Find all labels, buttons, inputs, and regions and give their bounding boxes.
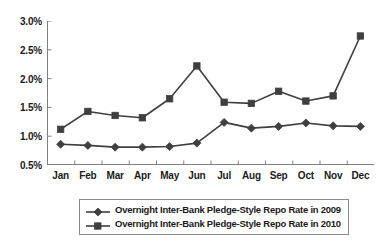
series-1 bbox=[57, 118, 365, 151]
y-tick-label: 2.0% bbox=[20, 73, 42, 84]
square-marker-icon bbox=[221, 99, 227, 105]
y-tick-label: 2.5% bbox=[20, 44, 42, 55]
y-tick-label: 1.5% bbox=[20, 102, 42, 113]
legend-label: Overnight Inter-Bank Pledge-Style Repo R… bbox=[115, 204, 341, 216]
y-tick-label: 1.0% bbox=[20, 131, 42, 142]
square-marker-icon bbox=[357, 33, 363, 39]
x-tick-label: Jul bbox=[217, 170, 231, 181]
series-2 bbox=[57, 33, 363, 133]
diamond-marker-icon bbox=[138, 143, 146, 151]
square-marker-icon bbox=[112, 112, 118, 118]
x-tick-label: Feb bbox=[79, 170, 96, 181]
x-tick-label: Sep bbox=[270, 170, 288, 181]
legend-item[interactable]: Overnight Inter-Bank Pledge-Style Repo R… bbox=[85, 203, 341, 217]
diamond-marker-icon bbox=[84, 141, 92, 149]
x-tick-label: Aug bbox=[242, 170, 261, 181]
y-tick-label: 3.0% bbox=[20, 16, 42, 27]
x-tick-label: Mar bbox=[107, 170, 124, 181]
square-marker-icon bbox=[57, 126, 63, 132]
square-marker-icon bbox=[139, 115, 145, 121]
diamond-marker-icon bbox=[85, 204, 111, 216]
legend-item[interactable]: Overnight Inter-Bank Pledge-Style Repo R… bbox=[85, 217, 341, 231]
x-tick-label: Jun bbox=[188, 170, 205, 181]
square-marker-icon bbox=[166, 96, 172, 102]
square-marker-icon bbox=[85, 218, 111, 230]
series-line bbox=[61, 36, 361, 129]
diamond-marker-icon bbox=[57, 140, 65, 148]
square-marker-icon bbox=[194, 63, 200, 69]
square-marker-icon bbox=[248, 100, 254, 106]
y-axis: 0.5%1.0%1.5%2.0%2.5%3.0% bbox=[0, 21, 42, 165]
diamond-marker-icon bbox=[302, 119, 310, 127]
square-marker-icon bbox=[330, 93, 336, 99]
plot-area bbox=[47, 21, 374, 165]
x-tick-label: Nov bbox=[324, 170, 342, 181]
x-tick-label: Dec bbox=[352, 170, 370, 181]
diamond-marker-icon bbox=[247, 124, 255, 132]
diamond-marker-icon bbox=[275, 122, 283, 130]
x-tick-label: May bbox=[160, 170, 179, 181]
x-tick-label: Jan bbox=[52, 170, 69, 181]
diamond-marker-icon bbox=[356, 122, 364, 130]
square-marker-icon bbox=[303, 98, 309, 104]
square-marker-icon bbox=[275, 88, 281, 94]
plot-svg bbox=[47, 21, 374, 165]
chart-legend: Overnight Inter-Bank Pledge-Style Repo R… bbox=[79, 199, 349, 235]
square-marker-icon bbox=[85, 108, 91, 114]
legend-label: Overnight Inter-Bank Pledge-Style Repo R… bbox=[115, 218, 341, 230]
diamond-marker-icon bbox=[111, 143, 119, 151]
y-tick-label: 0.5% bbox=[20, 160, 42, 171]
line-chart: 0.5%1.0%1.5%2.0%2.5%3.0% JanFebMarAprMay… bbox=[0, 0, 384, 244]
diamond-marker-icon bbox=[329, 122, 337, 130]
diamond-marker-icon bbox=[166, 143, 174, 151]
x-axis: JanFebMarAprMayJunJulAugSepOctNovDec bbox=[47, 170, 374, 186]
x-tick-label: Apr bbox=[134, 170, 151, 181]
series-line bbox=[61, 122, 361, 147]
x-tick-label: Oct bbox=[298, 170, 314, 181]
